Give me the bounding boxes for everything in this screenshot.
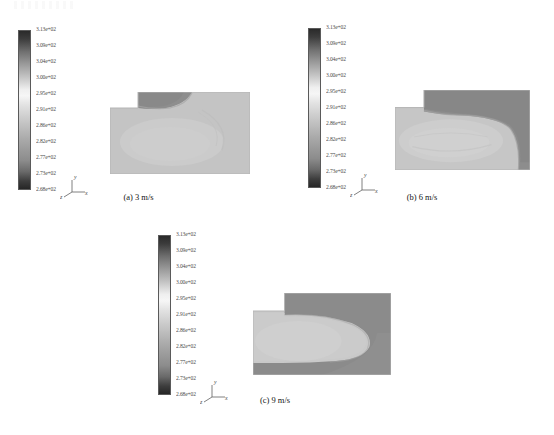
contour-plot-c (253, 293, 391, 375)
colorbar-gradient (158, 235, 171, 395)
colorbar-tick-6: 2.86e+02 (176, 327, 196, 334)
panel-c-caption: (c) 9 m/s (140, 395, 410, 405)
svg-text:y: y (73, 174, 77, 180)
colorbar-tick-9: 2.73e+02 (176, 375, 196, 382)
colorbar-tick-0: 3.13e+02 (176, 231, 196, 238)
colorbar-tick-8: 2.77e+02 (36, 154, 56, 161)
colorbar-tick-7: 2.82e+02 (326, 136, 346, 143)
svg-text:y: y (363, 172, 367, 178)
colorbar-tick-4: 2.95e+02 (176, 295, 196, 302)
colorbar-tick-9: 2.73e+02 (36, 170, 56, 177)
colorbar-tick-4: 2.95e+02 (36, 90, 56, 97)
colorbar-tick-10: 2.68e+02 (326, 184, 346, 191)
colorbar-tick-6: 2.86e+02 (36, 122, 56, 129)
colorbar-tick-7: 2.82e+02 (176, 343, 196, 350)
colorbar-tick-1: 3.09e+02 (176, 247, 196, 254)
colorbar-gradient (308, 28, 321, 188)
panel-b-caption: (b) 6 m/s (290, 192, 554, 202)
colorbar-tick-3: 3.00e+02 (176, 279, 196, 286)
colorbar-tick-8: 2.77e+02 (326, 152, 346, 159)
colorbar-tick-0: 3.13e+02 (326, 24, 346, 31)
panel-a-caption: (a) 3 m/s (0, 192, 277, 202)
colorbar-tick-2: 3.04e+02 (36, 58, 56, 65)
figure-contour-panels: 3.13e+02 3.09e+02 3.04e+02 3.00e+02 2.95… (0, 0, 554, 435)
colorbar-tick-2: 3.04e+02 (176, 263, 196, 270)
colorbar-tick-1: 3.09e+02 (326, 40, 346, 47)
colorbar-tick-5: 2.91e+02 (176, 311, 196, 318)
scan-artifact (14, 1, 76, 9)
colorbar-tick-0: 3.13e+02 (36, 26, 56, 33)
colorbar-tick-7: 2.82e+02 (36, 138, 56, 145)
colorbar-ticks: 3.13e+02 3.09e+02 3.04e+02 3.00e+02 2.95… (36, 26, 84, 194)
colorbar-ticks: 3.13e+02 3.09e+02 3.04e+02 3.00e+02 2.95… (326, 24, 374, 192)
colorbar-tick-2: 3.04e+02 (326, 56, 346, 63)
panel-a: 3.13e+02 3.09e+02 3.04e+02 3.00e+02 2.95… (0, 20, 277, 220)
panel-b: 3.13e+02 3.09e+02 3.04e+02 3.00e+02 2.95… (290, 20, 554, 220)
colorbar-tick-5: 2.91e+02 (326, 104, 346, 111)
colorbar-tick-6: 2.86e+02 (326, 120, 346, 127)
colorbar-tick-4: 2.95e+02 (326, 88, 346, 95)
contour-plot-a (110, 92, 250, 174)
colorbar-ticks: 3.13e+02 3.09e+02 3.04e+02 3.00e+02 2.95… (176, 231, 224, 399)
colorbar-tick-1: 3.09e+02 (36, 42, 56, 49)
colorbar-tick-3: 3.00e+02 (326, 72, 346, 79)
colorbar-tick-9: 2.73e+02 (326, 168, 346, 175)
colorbar-tick-8: 2.77e+02 (176, 359, 196, 366)
contour-plot-b (395, 90, 530, 170)
panel-c: 3.13e+02 3.09e+02 3.04e+02 3.00e+02 2.95… (140, 225, 410, 425)
colorbar-gradient (18, 30, 31, 190)
colorbar-tick-3: 3.00e+02 (36, 74, 56, 81)
svg-text:y: y (213, 379, 217, 385)
colorbar-tick-5: 2.91e+02 (36, 106, 56, 113)
